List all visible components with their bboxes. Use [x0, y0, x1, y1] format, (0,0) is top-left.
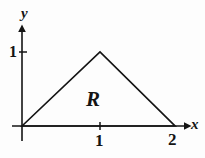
x-axis-label: x [191, 117, 199, 132]
figure-canvas: y x 1 1 2 R [0, 0, 205, 158]
x-axis-tick-label-1: 1 [95, 132, 104, 149]
y-axis-label: y [21, 6, 28, 21]
y-axis-tick-label-1: 1 [9, 44, 17, 60]
y-axis-arrowhead-icon [18, 25, 26, 33]
x-axis-tick-label-2: 2 [168, 131, 177, 148]
region-label-r: R [86, 89, 100, 110]
